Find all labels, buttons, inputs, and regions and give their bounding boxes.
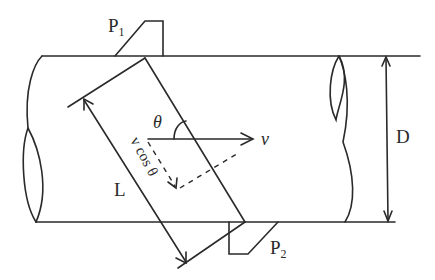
label-v-cos-theta: v cos θ — [127, 134, 161, 179]
label-diameter: D — [396, 126, 410, 147]
label-p1: P1 — [108, 15, 125, 39]
label-velocity: v — [261, 129, 269, 149]
label-p2: P2 — [270, 237, 287, 261]
path-length-dimension — [84, 99, 186, 263]
label-length: L — [114, 179, 126, 200]
velocity-projection — [148, 142, 240, 188]
pipe-left-break — [23, 56, 43, 222]
label-theta: θ — [153, 112, 162, 132]
pipe-right-break — [330, 56, 353, 222]
flowmeter-diagram: P1 P2 θ v L D v cos θ — [0, 0, 435, 280]
velocity-vector — [148, 133, 253, 145]
diameter-dimension — [382, 57, 392, 221]
